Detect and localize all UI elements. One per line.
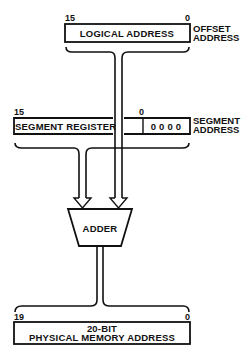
segment-bus <box>15 143 189 208</box>
segment-offset-address-diagram: 15 0 LOGICAL ADDRESS OFFSET ADDRESS 15 0… <box>0 0 250 357</box>
physical-address-bit-low: 0 <box>185 312 190 322</box>
segment-register-label: SEGMENT REGISTER <box>15 121 116 132</box>
offset-arrow-icon <box>110 198 127 208</box>
segment-register-group: 15 0 SEGMENT REGISTER 0 0 0 0 SEGMENT AD… <box>14 107 240 135</box>
physical-bus <box>15 246 189 312</box>
logical-address-group: 15 0 LOGICAL ADDRESS OFFSET ADDRESS <box>65 13 239 43</box>
logical-address-label: LOGICAL ADDRESS <box>80 28 174 39</box>
physical-brace-left <box>15 246 97 312</box>
logical-address-bit-low: 0 <box>185 13 190 23</box>
offset-address-label-line2: ADDRESS <box>193 32 239 43</box>
segment-arrow-icon <box>74 198 91 208</box>
adder-label: ADDER <box>83 223 118 234</box>
segment-padding-bits: 0 0 0 0 <box>151 121 181 132</box>
segment-register-bit-high: 15 <box>14 107 24 117</box>
segment-brace-right <box>86 143 189 198</box>
segment-brace-left <box>15 143 79 198</box>
logical-address-bit-high: 15 <box>65 13 75 23</box>
physical-address-label-line2: PHYSICAL MEMORY ADDRESS <box>29 332 175 343</box>
segment-address-label-line2: ADDRESS <box>193 124 239 135</box>
adder-group: ADDER <box>68 209 132 246</box>
segment-register-bit-low: 0 <box>139 107 144 117</box>
physical-address-group: 19 0 20-BIT PHYSICAL MEMORY ADDRESS <box>14 312 190 344</box>
physical-address-bit-high: 19 <box>14 312 24 322</box>
physical-brace-right <box>103 246 189 312</box>
